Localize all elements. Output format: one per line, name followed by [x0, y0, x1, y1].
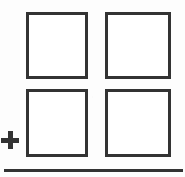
grid-cell-top-right	[105, 12, 171, 79]
figure-canvas	[0, 0, 185, 177]
grid-cell-top-left	[26, 12, 88, 79]
baseline-rule	[4, 169, 183, 172]
plus-icon-vertical-bar	[8, 131, 13, 149]
grid-cell-bottom-right	[105, 89, 171, 157]
grid-cell-bottom-left	[26, 89, 88, 157]
plus-icon	[1, 131, 19, 149]
